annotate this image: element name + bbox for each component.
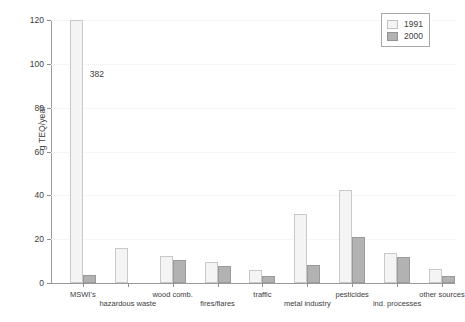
y-tick-label: 120 bbox=[30, 15, 44, 25]
legend-label-1991: 1991 bbox=[404, 20, 423, 29]
bar-2000[interactable] bbox=[262, 276, 275, 283]
legend-swatch-2000-icon bbox=[387, 32, 398, 41]
x-axis-line bbox=[51, 283, 455, 284]
x-axis-label: MSWI's bbox=[70, 290, 96, 299]
bar-group bbox=[294, 20, 320, 283]
bar-group bbox=[249, 20, 275, 283]
bar-group bbox=[70, 20, 96, 283]
bar-2000[interactable] bbox=[397, 257, 410, 283]
x-tick-mark bbox=[352, 283, 353, 287]
bar-group bbox=[160, 20, 186, 283]
x-tick-mark bbox=[218, 283, 219, 287]
bar-1991[interactable] bbox=[294, 214, 307, 283]
x-tick-mark bbox=[83, 283, 84, 287]
x-tick-mark bbox=[262, 283, 263, 287]
bar-value-annotation: 382 bbox=[90, 69, 104, 79]
x-tick-mark bbox=[397, 283, 398, 287]
bar-1991[interactable] bbox=[429, 269, 442, 283]
y-axis-title: g TEQ/year bbox=[37, 83, 47, 173]
x-axis-label: other sources bbox=[419, 290, 464, 299]
bar-1991[interactable] bbox=[205, 262, 218, 283]
x-tick-mark bbox=[442, 283, 443, 287]
x-axis-label: fires/flares bbox=[200, 299, 235, 308]
x-axis-label: traffic bbox=[253, 290, 271, 299]
y-tick-label: 100 bbox=[30, 59, 44, 69]
legend-item-2000[interactable]: 2000 bbox=[387, 30, 423, 42]
x-tick-mark bbox=[128, 283, 129, 287]
plot-area: 020406080100120 382 bbox=[51, 20, 455, 283]
y-tick-label: 0 bbox=[39, 278, 44, 288]
bar-2000[interactable] bbox=[442, 276, 455, 283]
legend-swatch-1991-icon bbox=[387, 20, 398, 29]
legend: 1991 2000 bbox=[381, 13, 430, 47]
x-tick-mark bbox=[173, 283, 174, 287]
bar-1991[interactable] bbox=[339, 190, 352, 283]
y-tick-label: 20 bbox=[35, 234, 44, 244]
bar-2000[interactable] bbox=[307, 265, 320, 283]
bar-1991[interactable] bbox=[115, 248, 128, 284]
x-axis-label: metal industry bbox=[284, 299, 331, 308]
x-axis-label: hazardous waste bbox=[99, 299, 156, 308]
bar-2000[interactable] bbox=[352, 237, 365, 283]
bar-group bbox=[339, 20, 365, 283]
x-axis-label: ind. processes bbox=[373, 299, 421, 308]
bar-1991[interactable] bbox=[70, 20, 83, 283]
bar-group bbox=[205, 20, 231, 283]
x-tick-mark bbox=[307, 283, 308, 287]
y-tick-label: 40 bbox=[35, 190, 44, 200]
y-tick-label: 60 bbox=[35, 147, 44, 157]
x-axis-label: wood comb. bbox=[152, 290, 192, 299]
y-tick-label: 80 bbox=[35, 103, 44, 113]
bar-2000[interactable] bbox=[173, 260, 186, 283]
legend-label-2000: 2000 bbox=[404, 32, 423, 41]
bar-group bbox=[384, 20, 410, 283]
bar-2000[interactable] bbox=[83, 275, 96, 283]
bar-1991[interactable] bbox=[160, 256, 173, 283]
bar-group bbox=[429, 20, 455, 283]
legend-item-1991[interactable]: 1991 bbox=[387, 18, 423, 30]
x-axis-label: pesticides bbox=[335, 290, 368, 299]
y-tick-mark bbox=[47, 283, 51, 284]
bar-1991[interactable] bbox=[249, 270, 262, 283]
bar-1991[interactable] bbox=[384, 253, 397, 283]
bar-group bbox=[115, 20, 141, 283]
bar-2000[interactable] bbox=[218, 266, 231, 283]
